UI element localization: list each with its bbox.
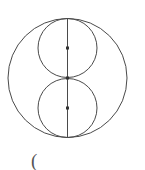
geometry-diagram xyxy=(0,0,145,170)
tangent-point xyxy=(66,77,69,80)
caption-parenthesis: ( xyxy=(31,151,37,170)
upper-center-point xyxy=(66,47,69,50)
lower-center-point xyxy=(66,107,69,110)
